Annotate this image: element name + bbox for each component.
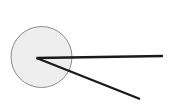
angle-diagram — [0, 0, 171, 112]
figure-container — [0, 0, 171, 112]
